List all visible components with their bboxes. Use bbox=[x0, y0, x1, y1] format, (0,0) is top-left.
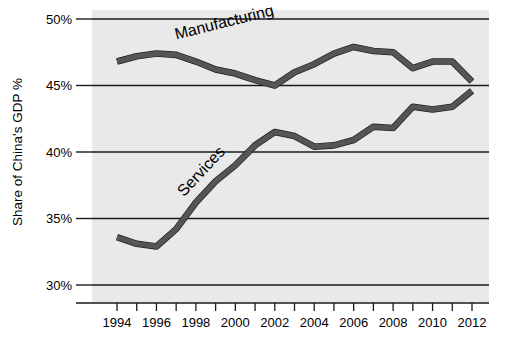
y-axis-title: Share of China's GDP % bbox=[10, 78, 25, 226]
y-tick-label-30: 30% bbox=[46, 278, 72, 293]
x-tick-label-2004: 2004 bbox=[300, 315, 329, 330]
x-tick-label-2012: 2012 bbox=[458, 315, 487, 330]
line-chart: 30%35%40%45%50% 199419961998200020022004… bbox=[0, 0, 506, 360]
x-tick-label-1998: 1998 bbox=[181, 315, 210, 330]
chart-container: 30%35%40%45%50% 199419961998200020022004… bbox=[0, 0, 506, 360]
y-tick-label-45: 45% bbox=[46, 78, 72, 93]
x-tick-label-2000: 2000 bbox=[221, 315, 250, 330]
y-tick-label-40: 40% bbox=[46, 145, 72, 160]
x-tick-label-2008: 2008 bbox=[379, 315, 408, 330]
x-tick-label-1996: 1996 bbox=[142, 315, 171, 330]
x-tick-label-2010: 2010 bbox=[418, 315, 447, 330]
x-tick-label-2006: 2006 bbox=[339, 315, 368, 330]
y-tick-label-50: 50% bbox=[46, 12, 72, 27]
y-tick-label-35: 35% bbox=[46, 211, 72, 226]
x-tick-label-1994: 1994 bbox=[103, 315, 132, 330]
x-tick-label-2002: 2002 bbox=[260, 315, 289, 330]
